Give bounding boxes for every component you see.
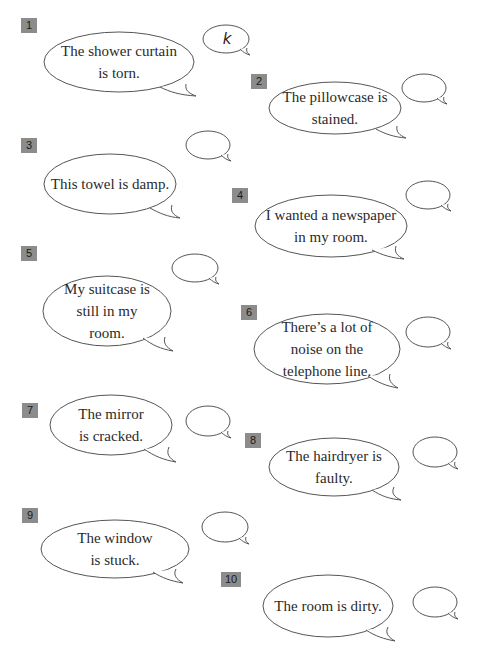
bubble-text: The shower curtain is torn. (44, 33, 194, 91)
speech-bubble: My suitcase is still in my room. (41, 275, 181, 355)
answer-text (412, 586, 462, 618)
bubble-text-line: is cracked. (78, 425, 143, 447)
bubble-text-line: The pillowcase is (283, 86, 388, 108)
bubble-text-line: is stuck. (77, 549, 152, 571)
item-number-badge: 9 (22, 508, 38, 523)
bubble-text: I wanted a newspaper in my room. (256, 197, 406, 255)
answer-text: k (202, 24, 252, 54)
answer-bubble[interactable] (405, 180, 455, 213)
speech-bubble: The window is stuck. (40, 519, 190, 587)
bubble-text-line: noise on the (281, 338, 372, 360)
bubble-text-line: The shower curtain (61, 40, 177, 62)
bubble-text-line: stained. (283, 108, 388, 130)
bubble-text: My suitcase is still in my room. (43, 277, 171, 345)
bubble-text-line: The room is dirty. (274, 595, 381, 617)
speech-bubble: There’s a lot of noise on the telephone … (252, 312, 402, 392)
bubble-text: The mirror is cracked. (50, 395, 172, 455)
bubble-text-line: room. (64, 322, 150, 344)
bubble-text: There’s a lot of noise on the telephone … (256, 314, 398, 384)
bubble-text: The room is dirty. (263, 577, 393, 635)
answer-text (412, 436, 462, 468)
bubble-text: The pillowcase is stained. (270, 83, 400, 133)
bubble-text-line: I wanted a newspaper (266, 204, 396, 226)
answer-bubble[interactable] (171, 253, 221, 286)
item-number-badge: 3 (21, 138, 37, 153)
bubble-text: The hairdryer is faulty. (269, 438, 399, 496)
answer-text (405, 316, 455, 348)
bubble-text-line: in my room. (266, 226, 396, 248)
speech-bubble: The shower curtain is torn. (40, 30, 200, 100)
bubble-text-line: faulty. (286, 467, 382, 489)
item-number-badge: 10 (221, 572, 241, 587)
answer-text (401, 73, 451, 103)
answer-text (185, 405, 235, 437)
answer-bubble[interactable] (412, 436, 462, 472)
bubble-text: This towel is damp. (44, 155, 176, 213)
answer-text (171, 253, 221, 283)
item-number-badge: 2 (251, 74, 267, 89)
answer-bubble[interactable] (201, 511, 251, 547)
bubble-text-line: is torn. (61, 62, 177, 84)
item-number-badge: 5 (21, 246, 37, 261)
answer-text (185, 130, 235, 160)
speech-bubble: The room is dirty. (261, 575, 406, 645)
item-number-badge: 7 (22, 403, 38, 418)
speech-bubble: The pillowcase is stained. (268, 81, 413, 141)
answer-bubble[interactable] (401, 73, 451, 106)
item-number-badge: 4 (232, 188, 248, 203)
bubble-text-line: The window (77, 527, 152, 549)
bubble-text-line: There’s a lot of (281, 316, 372, 338)
answer-bubble[interactable] (185, 130, 235, 163)
answer-bubble[interactable] (405, 316, 455, 352)
bubble-text-line: The mirror (78, 403, 143, 425)
speech-bubble: I wanted a newspaper in my room. (254, 193, 414, 263)
bubble-text-line: My suitcase is (64, 278, 150, 300)
bubble-text-line: This towel is damp. (51, 173, 169, 195)
bubble-text-line: still in my (64, 300, 150, 322)
answer-text (201, 511, 251, 543)
bubble-text-line: telephone line. (281, 360, 372, 382)
item-number-badge: 8 (245, 433, 261, 448)
speech-bubble: The mirror is cracked. (48, 395, 183, 467)
answer-bubble[interactable] (412, 586, 462, 622)
bubble-text-line: The hairdryer is (286, 445, 382, 467)
answer-bubble[interactable] (185, 405, 235, 441)
speech-bubble: This towel is damp. (42, 153, 187, 221)
answer-text (405, 180, 455, 210)
answer-bubble[interactable]: k (202, 24, 252, 57)
speech-bubble: The hairdryer is faulty. (267, 437, 407, 505)
item-number-badge: 1 (21, 18, 37, 33)
bubble-text: The window is stuck. (42, 520, 188, 578)
